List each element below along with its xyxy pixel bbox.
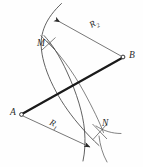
point-marker-a xyxy=(20,113,24,117)
construction-diagram-figure: A B M N R2 R1 xyxy=(0,0,143,167)
diagram-canvas xyxy=(0,0,143,167)
point-label-a: A xyxy=(10,108,16,118)
point-label-b: B xyxy=(129,51,135,61)
point-label-m: M xyxy=(37,39,45,49)
point-marker-b xyxy=(121,55,125,59)
segment-ab xyxy=(22,58,122,114)
point-label-n: N xyxy=(102,119,108,129)
arc-tail-below-n xyxy=(99,136,107,162)
